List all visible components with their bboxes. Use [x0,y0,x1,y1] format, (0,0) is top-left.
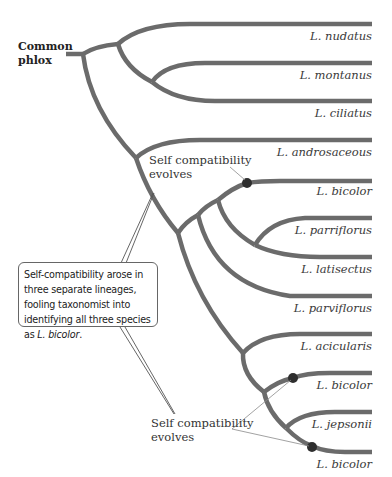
taxon-label-acicularis: L. acicularis [301,339,372,353]
self-compat-dot-3 [307,442,317,452]
callout-box: Self-compatibility arose in three separa… [18,262,158,327]
callout-pointer-top-a [121,193,153,263]
evolves-label-bottom: Self compatibility evolves [151,416,254,444]
taxon-label-montanus: L. montanus [300,68,372,82]
callout-pointer-top-b [126,193,154,263]
taxon-label-nudatus: L. nudatus [310,29,372,43]
branch-bicolor-3 [286,428,372,452]
branch-a-b [83,44,118,54]
evolves-bottom-line1: Self compatibility [151,416,254,430]
taxon-label-parviflorus: L. parviflorus [294,301,372,315]
evolves-top-line2: evolves [149,167,252,181]
taxon-label-parriflorus: L. parriflorus [295,223,372,237]
evolves-bottom-line2: evolves [151,430,254,444]
taxon-label-bicolor-1: L. bicolor [317,184,372,198]
taxon-label-bicolor-3: L. bicolor [317,457,372,471]
root-label: Common phlox [18,40,78,68]
taxon-label-jepsonii: L. jepsonii [312,417,372,431]
taxon-label-androsaceous: L. androsaceous [277,145,372,159]
branch-g-h [218,200,255,245]
callout-period: . [79,329,82,340]
callout-pointer-bottom-b [125,327,175,414]
branch-f-g [198,200,218,215]
root-label-line2: phlox [18,54,78,68]
root-label-line1: Common [18,40,78,54]
branch-e-f [178,215,198,233]
taxon-label-ciliatus: L. ciliatus [315,106,372,120]
branch-k-l [243,353,264,392]
taxon-label-latisectus: L. latisectus [301,262,372,276]
branch-latisectus [255,245,372,257]
evolves-top-line1: Self compatibility [149,153,252,167]
callout-species: L. bicolor [37,329,79,340]
branch-b-c [118,44,152,82]
callout-pointer-bottom-a [120,327,174,414]
evolves-label-top: Self compatibility evolves [149,153,252,181]
taxon-label-bicolor-2: L. bicolor [317,378,372,392]
branch-l-m [264,392,286,428]
branch-ciliatus [152,82,372,101]
branch-a-d [83,54,136,158]
